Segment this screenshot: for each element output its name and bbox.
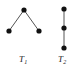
vertex-t2-middle [61, 25, 66, 30]
vertex-t1-right-leaf [36, 28, 41, 33]
edge-t1-apex-right-leaf [24, 10, 39, 31]
vertex-t2-top [61, 6, 66, 11]
graph-label-t1-subscript: 1 [24, 59, 27, 65]
graph-t2 [61, 6, 66, 50]
vertex-t1-apex [21, 7, 26, 12]
graph-t1 [6, 7, 41, 33]
graph-label-t1: T1 [19, 55, 27, 64]
two-trees-figure: T1 T2 [0, 0, 76, 73]
vertex-t1-left-leaf [6, 28, 11, 33]
edge-t1-apex-left-leaf [9, 10, 24, 31]
graph-label-t2-subscript: 2 [63, 59, 66, 65]
vertex-t2-bottom [61, 45, 66, 50]
graph-label-t2: T2 [58, 55, 66, 64]
